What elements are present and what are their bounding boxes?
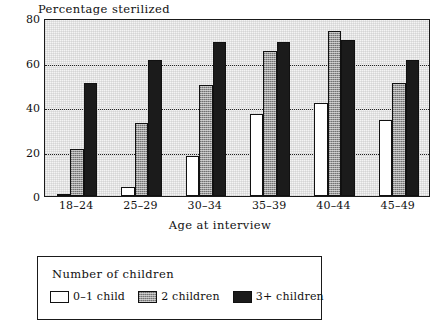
y-tick-label: 40 [2,103,40,114]
bar [263,51,277,196]
chart-title: Percentage sterilized [38,2,170,16]
bar [379,120,393,196]
x-tick-label: 35–39 [252,199,287,212]
bar [121,187,135,196]
bar [406,60,420,196]
legend-swatch-icon [138,291,157,303]
bar [341,40,355,196]
x-tick-label: 40–44 [316,199,351,212]
x-tick-label: 45–49 [381,199,416,212]
bar [250,114,264,196]
bar-group [302,20,366,196]
bar [277,42,291,196]
legend-title: Number of children [52,267,174,281]
bar [135,123,149,196]
bar-group [174,20,238,196]
y-tick-label: 0 [2,192,40,203]
legend-item[interactable]: 3+ children [233,290,324,303]
legend-item[interactable]: 2 children [138,290,220,303]
x-tick-label: 18–24 [59,199,94,212]
legend-swatch-icon [233,291,252,303]
y-tick-label: 60 [2,58,40,69]
legend: Number of children 0–1 child2 children3+… [37,256,322,320]
bar [199,85,213,196]
x-tick-label: 25–29 [123,199,158,212]
bar [186,156,200,196]
y-axis: 020406080 [0,19,40,197]
bar [57,194,71,196]
y-tick-label: 80 [2,14,40,25]
bar [70,149,84,196]
legend-item[interactable]: 0–1 child [50,290,125,303]
bar [84,83,98,196]
x-tick-label: 30–34 [188,199,223,212]
bars-layer [45,20,429,196]
legend-item-label: 0–1 child [73,290,125,303]
bar [392,83,406,196]
bar [328,31,342,196]
bar-group [238,20,302,196]
x-axis: 18–2425–2930–3435–3940–4445–49 [44,199,430,217]
legend-item-label: 2 children [161,290,220,303]
bar-group [367,20,431,196]
plot-area [44,19,430,197]
bar [213,42,227,196]
bar-group [109,20,173,196]
bar-group [45,20,109,196]
x-axis-title: Age at interview [0,218,440,232]
bar [314,103,328,196]
legend-items: 0–1 child2 children3+ children [50,290,324,303]
legend-swatch-icon [50,291,69,303]
y-tick-label: 20 [2,147,40,158]
legend-item-label: 3+ children [256,290,324,303]
bar [148,60,162,196]
